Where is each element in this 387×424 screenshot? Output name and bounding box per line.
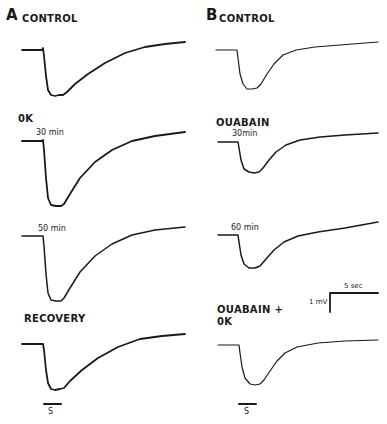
scale-bar-voltage-label: 1 mV — [309, 298, 327, 306]
panel-a-letter: A — [6, 6, 18, 24]
panel-a-control-label: CONTROL — [22, 13, 78, 24]
panel-b-stim-label: S — [244, 407, 249, 416]
panel-b-ouabain-label: OUABAIN — [216, 117, 270, 128]
panel-a-30min-label: 30 min — [36, 128, 64, 137]
panel-a-recovery-label: RECOVERY — [24, 313, 85, 324]
traces-canvas — [0, 0, 387, 424]
panel-b-control-label: CONTROL — [219, 13, 275, 24]
panel-b-ouabain-0k-label-2: 0K — [217, 316, 232, 327]
trace-b-control — [216, 42, 378, 89]
panel-b-60min-label: 60 min — [231, 223, 259, 232]
trace-a-control — [22, 42, 185, 96]
trace-b-ouabain-0k — [218, 340, 378, 385]
panel-b-letter: B — [206, 6, 218, 24]
scale-bar — [330, 293, 378, 312]
panel-a-50min-label: 50 min — [38, 224, 66, 233]
trace-a-0k-30min — [22, 132, 185, 206]
trace-b-ouabain-30min — [218, 133, 378, 173]
panel-a-0k-label: 0K — [18, 113, 33, 124]
panel-b-ouabain-0k-label: OUABAIN + — [217, 304, 283, 315]
trace-a-recovery — [22, 334, 185, 390]
trace-a-0k-50min — [22, 227, 185, 301]
panel-b-30min-label: 30min — [232, 129, 257, 138]
scale-bar-time-label: 5 sec — [344, 282, 362, 290]
panel-a-stim-label: S — [48, 407, 53, 416]
